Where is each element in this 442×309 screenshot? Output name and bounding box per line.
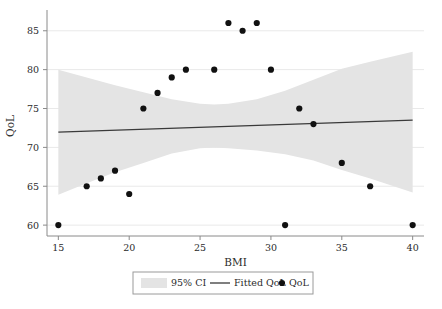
data-point	[98, 175, 104, 181]
y-tick-label: 60	[27, 220, 39, 231]
x-tick-label: 25	[194, 242, 206, 253]
x-tick-label: 15	[52, 242, 64, 253]
legend-label-ci: 95% CI	[171, 277, 206, 288]
y-tick-label: 85	[27, 25, 39, 36]
data-point	[254, 20, 260, 26]
data-point	[268, 67, 274, 73]
y-axis: 606570758085	[27, 10, 47, 236]
data-point	[154, 90, 160, 96]
x-tick-label: 40	[407, 242, 419, 253]
y-tick-label: 70	[27, 142, 39, 153]
x-tick-label: 20	[123, 242, 135, 253]
chart-legend: 95% CI Fitted QoL QoL	[133, 272, 313, 294]
y-tick-label: 75	[27, 103, 39, 114]
data-point	[225, 20, 231, 26]
x-axis-title: BMI	[224, 256, 247, 268]
scatter-chart-qol-vs-bmi: 606570758085 152025303540 BMI QoL 95% CI…	[0, 0, 442, 309]
data-point	[410, 222, 416, 228]
data-point	[339, 160, 345, 166]
data-point	[169, 74, 175, 80]
y-tick-label: 65	[27, 181, 39, 192]
data-point	[282, 222, 288, 228]
data-point	[84, 183, 90, 189]
data-point	[239, 28, 245, 34]
data-point	[367, 183, 373, 189]
chart-canvas: 606570758085 152025303540 BMI QoL 95% CI…	[0, 0, 442, 309]
data-point	[310, 121, 316, 127]
legend-swatch-ci-icon	[141, 278, 167, 288]
x-tick-label: 35	[336, 242, 348, 253]
data-point	[296, 105, 302, 111]
data-point	[112, 168, 118, 174]
x-tick-label: 30	[265, 242, 277, 253]
data-point	[140, 105, 146, 111]
legend-label-fit: Fitted QoL	[234, 277, 286, 288]
y-axis-title: QoL	[4, 115, 16, 137]
y-tick-label: 80	[27, 64, 39, 75]
data-point	[126, 191, 132, 197]
data-point	[55, 222, 61, 228]
legend-label-points: QoL	[289, 277, 310, 288]
data-point	[211, 67, 217, 73]
legend-swatch-point-icon	[279, 280, 285, 286]
confidence-interval-band	[58, 52, 412, 195]
x-axis: 152025303540	[47, 236, 424, 253]
data-point	[183, 67, 189, 73]
